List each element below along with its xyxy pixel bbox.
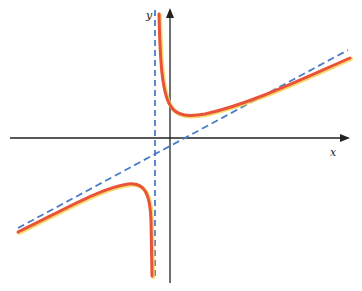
graph-canvas: x y xyxy=(0,0,362,291)
oblique-asymptote xyxy=(18,50,348,228)
x-axis-label: x xyxy=(330,146,337,159)
curve-left-branch xyxy=(18,184,152,276)
y-axis-label: y xyxy=(145,9,153,22)
function-curve xyxy=(18,14,350,276)
curve-glow xyxy=(19,15,351,277)
